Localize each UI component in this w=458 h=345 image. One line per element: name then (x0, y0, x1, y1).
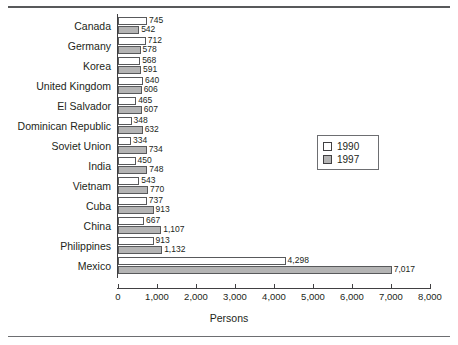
category-label: Dominican Republic (0, 119, 111, 133)
x-tick-label: 8,000 (418, 291, 442, 302)
gray-square-icon (323, 155, 332, 164)
x-tick (196, 284, 197, 289)
bar-value-label: 734 (149, 145, 163, 154)
bar-1997 (118, 46, 141, 54)
bar-1997 (118, 86, 142, 94)
bar-value-label: 667 (146, 216, 160, 225)
x-tick-label: 4,000 (262, 291, 286, 302)
chart-page: 01,0002,0003,0004,0005,0006,0007,0008,00… (0, 0, 458, 345)
category-label: Philippines (0, 239, 111, 253)
bar-value-label: 770 (150, 185, 164, 194)
bar-1990 (118, 177, 139, 185)
x-tick (352, 284, 353, 289)
x-tick (118, 284, 119, 289)
bar-row: Dominican Republic348632 (0, 116, 458, 136)
category-label: Soviet Union (0, 139, 111, 153)
category-label: Germany (0, 39, 111, 53)
bar-1997 (118, 166, 147, 174)
category-label: Cuba (0, 199, 111, 213)
category-label: Mexico (0, 259, 111, 273)
bar-1990 (118, 257, 286, 265)
bar-row: United Kingdom640606 (0, 76, 458, 96)
category-label: Vietnam (0, 179, 111, 193)
bar-value-label: 542 (141, 25, 155, 34)
bar-row: Korea568591 (0, 56, 458, 76)
x-tick (313, 284, 314, 289)
bar-1990 (118, 37, 146, 45)
bar-1990 (118, 157, 136, 165)
bar-1997 (118, 186, 148, 194)
bar-1997 (118, 266, 392, 274)
legend-item-1997: 1997 (323, 153, 373, 166)
x-tick-label: 0 (115, 291, 120, 302)
bar-value-label: 913 (156, 205, 170, 214)
x-tick-label: 5,000 (301, 291, 325, 302)
x-tick-label: 6,000 (340, 291, 364, 302)
bar-row: Philippines9131,132 (0, 236, 458, 256)
bar-value-label: 1,107 (163, 225, 184, 234)
bar-1997 (118, 66, 141, 74)
category-label: El Salvador (0, 99, 111, 113)
bar-row: China6671,107 (0, 216, 458, 236)
category-label: India (0, 159, 111, 173)
bar-1990 (118, 237, 154, 245)
legend-label-1990: 1990 (337, 141, 359, 152)
x-tick-label: 1,000 (145, 291, 169, 302)
bar-value-label: 1,132 (164, 245, 185, 254)
x-tick (235, 284, 236, 289)
bar-1997 (118, 146, 147, 154)
x-axis-label: Persons (0, 312, 458, 324)
bar-row: Canada745542 (0, 16, 458, 36)
bar-1997 (118, 126, 143, 134)
bar-row: Vietnam543770 (0, 176, 458, 196)
bar-value-label: 748 (149, 165, 163, 174)
legend-item-1990: 1990 (323, 140, 373, 153)
bar-value-label: 591 (143, 65, 157, 74)
bar-1990 (118, 57, 140, 65)
category-label: United Kingdom (0, 79, 111, 93)
bar-1997 (118, 106, 142, 114)
x-tick (157, 284, 158, 289)
category-label: Canada (0, 19, 111, 33)
bar-1997 (118, 26, 139, 34)
bar-value-label: 7,017 (394, 265, 415, 274)
legend-label-1997: 1997 (337, 154, 359, 165)
x-tick (274, 284, 275, 289)
bar-1990 (118, 77, 143, 85)
bar-row: El Salvador465607 (0, 96, 458, 116)
x-tick-label: 3,000 (223, 291, 247, 302)
bar-value-label: 632 (145, 125, 159, 134)
bar-row: Germany712578 (0, 36, 458, 56)
bar-row: Cuba737913 (0, 196, 458, 216)
x-tick (391, 284, 392, 289)
bar-value-label: 607 (144, 105, 158, 114)
bar-row: India450748 (0, 156, 458, 176)
bar-1997 (118, 226, 161, 234)
x-tick-label: 7,000 (379, 291, 403, 302)
bar-value-label: 334 (133, 136, 147, 145)
bar-1990 (118, 97, 136, 105)
x-tick-label: 2,000 (184, 291, 208, 302)
bar-1990 (118, 117, 132, 125)
category-label: Korea (0, 59, 111, 73)
bar-value-label: 578 (143, 45, 157, 54)
bar-1997 (118, 246, 162, 254)
white-square-icon (323, 142, 332, 151)
x-tick (430, 284, 431, 289)
bar-value-label: 606 (144, 85, 158, 94)
bar-row: Mexico4,2987,017 (0, 256, 458, 276)
bar-1990 (118, 197, 147, 205)
bar-row: Soviet Union334734 (0, 136, 458, 156)
category-label: China (0, 219, 111, 233)
bar-value-label: 4,298 (288, 256, 309, 265)
bar-1990 (118, 137, 131, 145)
chart-legend: 1990 1997 (317, 135, 379, 170)
bar-1997 (118, 206, 154, 214)
horizontal-bar-chart: 01,0002,0003,0004,0005,0006,0007,0008,00… (0, 0, 458, 345)
bar-1990 (118, 217, 144, 225)
